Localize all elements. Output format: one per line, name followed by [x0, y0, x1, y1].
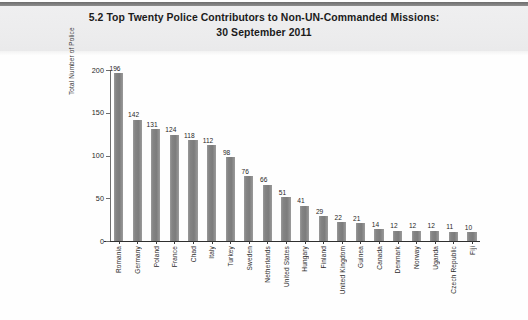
- bar-value-label: 12: [404, 222, 422, 229]
- x-tick-label: Germany: [134, 246, 141, 274]
- x-tick-mark: [174, 241, 175, 244]
- bar-item[interactable]: 98: [222, 70, 241, 241]
- x-tick-mark: [323, 241, 324, 244]
- x-tick-mark: [249, 241, 250, 244]
- bar-value-label: 124: [162, 126, 180, 133]
- x-tick-mark: [379, 241, 380, 244]
- x-tick-label: Uganda: [432, 246, 439, 270]
- x-tick-mark: [342, 241, 343, 244]
- x-tick-mark: [193, 241, 194, 244]
- bar[interactable]: [170, 135, 179, 241]
- x-tick-mark: [156, 241, 157, 244]
- x-tick-mark: [472, 241, 473, 244]
- bar[interactable]: [281, 197, 290, 241]
- y-tick-mark: [106, 241, 110, 242]
- x-tick-label: Fiji: [469, 246, 476, 255]
- bar-value-label: 76: [236, 168, 254, 175]
- x-tick-label: Hungary: [301, 246, 308, 272]
- x-tick-mark: [360, 241, 361, 244]
- bar-value-label: 131: [143, 121, 161, 128]
- y-tick-label: 0: [80, 237, 104, 246]
- x-tick-mark: [435, 241, 436, 244]
- bar-value-label: 12: [385, 222, 403, 229]
- bar-item[interactable]: 142: [129, 70, 148, 241]
- bar[interactable]: [449, 232, 458, 241]
- bar[interactable]: [412, 231, 421, 241]
- bar-item[interactable]: 51: [277, 70, 296, 241]
- x-tick-mark: [230, 241, 231, 244]
- bar-value-label: 14: [366, 221, 384, 228]
- bar-value-label: 41: [292, 197, 310, 204]
- bar-chart: Total Number of Police 050100150200 1961…: [0, 0, 528, 320]
- bar-item[interactable]: 14: [370, 70, 389, 241]
- x-tick-mark: [305, 241, 306, 244]
- bar[interactable]: [151, 129, 160, 241]
- x-tick-label: France: [171, 246, 178, 267]
- bar-value-label: 112: [199, 137, 217, 144]
- bar[interactable]: [226, 157, 235, 241]
- bar[interactable]: [337, 222, 346, 241]
- bar[interactable]: [188, 140, 197, 241]
- x-tick-label: Norway: [413, 246, 420, 269]
- y-tick-label: 150: [80, 108, 104, 117]
- bar-item[interactable]: 11: [445, 70, 464, 241]
- x-tick-label: United Kingdom: [339, 246, 346, 294]
- x-tick-label: Netherlands: [264, 246, 271, 283]
- bar[interactable]: [263, 185, 272, 241]
- x-tick-mark: [267, 241, 268, 244]
- x-tick-label: Czech Republic: [450, 246, 457, 294]
- bar[interactable]: [467, 232, 476, 241]
- bar-item[interactable]: 10: [463, 70, 482, 241]
- x-tick-label: Chad: [190, 246, 197, 262]
- y-tick-label: 100: [80, 151, 104, 160]
- bar-item[interactable]: 131: [147, 70, 166, 241]
- bar-item[interactable]: 12: [389, 70, 408, 241]
- x-axis-line: [104, 241, 480, 242]
- x-tick-label: Poland: [153, 246, 160, 267]
- x-tick-label: Italy: [208, 246, 215, 259]
- bar[interactable]: [114, 73, 123, 241]
- x-tick-mark: [137, 241, 138, 244]
- bar-item[interactable]: 118: [184, 70, 203, 241]
- bar-item[interactable]: 196: [110, 70, 129, 241]
- bar-item[interactable]: 12: [408, 70, 427, 241]
- bar-value-label: 118: [180, 132, 198, 139]
- bar-item[interactable]: 12: [426, 70, 445, 241]
- bar[interactable]: [300, 206, 309, 241]
- bar-value-label: 21: [348, 215, 366, 222]
- bar-item[interactable]: 41: [296, 70, 315, 241]
- page-root: 5.2 Top Twenty Police Contributors to No…: [0, 0, 528, 320]
- x-tick-mark: [286, 241, 287, 244]
- bar[interactable]: [244, 176, 253, 241]
- bar-value-label: 66: [255, 176, 273, 183]
- bar[interactable]: [374, 229, 383, 241]
- bar[interactable]: [133, 120, 142, 241]
- bar-value-label: 196: [106, 65, 124, 72]
- bar-item[interactable]: 66: [259, 70, 278, 241]
- x-tick-mark: [416, 241, 417, 244]
- bar[interactable]: [430, 231, 439, 241]
- x-tick-label: Denmark: [394, 246, 401, 273]
- bar[interactable]: [393, 231, 402, 241]
- bar[interactable]: [356, 223, 365, 241]
- bar-value-label: 22: [329, 214, 347, 221]
- bar-value-label: 98: [218, 149, 236, 156]
- bar[interactable]: [207, 145, 216, 241]
- bar-item[interactable]: 21: [352, 70, 371, 241]
- x-tick-label: Canada: [376, 246, 383, 270]
- x-tick-label: Romania: [115, 246, 122, 273]
- bar[interactable]: [319, 216, 328, 241]
- bar-item[interactable]: 124: [166, 70, 185, 241]
- bar-value-label: 142: [125, 111, 143, 118]
- x-tick-mark: [453, 241, 454, 244]
- bar-value-label: 10: [459, 224, 477, 231]
- bar-value-label: 11: [441, 223, 459, 230]
- bar-item[interactable]: 76: [240, 70, 259, 241]
- x-tick-label: Guinea: [357, 246, 364, 268]
- bar-value-label: 12: [422, 222, 440, 229]
- x-tick-label: United States: [283, 246, 290, 287]
- x-tick-mark: [398, 241, 399, 244]
- y-tick-label: 200: [80, 66, 104, 75]
- bar-value-label: 51: [273, 189, 291, 196]
- x-tick-label: Sweden: [246, 246, 253, 270]
